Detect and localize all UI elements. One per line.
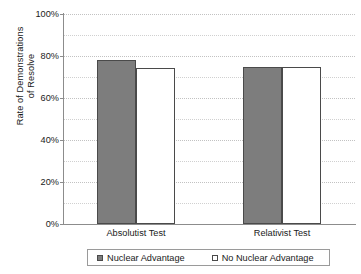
gridline-major bbox=[63, 14, 355, 15]
y-axis-tick-label: 100% bbox=[36, 9, 60, 19]
bar-chart: Rate of Demonstrations of Resolve 0%20%4… bbox=[0, 0, 361, 274]
legend-swatch-icon bbox=[97, 255, 103, 261]
x-axis-category-label: Relativist Test bbox=[254, 228, 311, 238]
legend-label: Nuclear Advantage bbox=[107, 253, 185, 263]
y-axis-tick-label: 80% bbox=[41, 51, 59, 61]
chart-legend: Nuclear AdvantageNo Nuclear Advantage bbox=[87, 249, 330, 266]
bar-nuclear-advantage bbox=[243, 67, 282, 225]
y-axis-tick-label: 20% bbox=[41, 177, 59, 187]
bar-no-nuclear-advantage bbox=[282, 67, 321, 225]
y-axis-tick-label: 40% bbox=[41, 135, 59, 145]
legend-swatch-icon bbox=[212, 255, 218, 261]
gridline-major bbox=[63, 56, 355, 57]
x-axis-category-labels: Absolutist TestRelativist Test bbox=[63, 228, 355, 244]
legend-entry[interactable]: Nuclear Advantage bbox=[97, 253, 185, 263]
legend-entry[interactable]: No Nuclear Advantage bbox=[212, 253, 314, 263]
y-axis-tick-label: 60% bbox=[41, 93, 59, 103]
y-axis-tick-labels: 0%20%40%60%80%100% bbox=[0, 14, 63, 224]
bar-nuclear-advantage bbox=[97, 60, 136, 224]
x-axis-line bbox=[63, 224, 356, 225]
plot-area bbox=[63, 14, 355, 224]
bar-no-nuclear-advantage bbox=[136, 68, 175, 224]
legend-label: No Nuclear Advantage bbox=[222, 253, 314, 263]
y-axis-line bbox=[63, 13, 64, 225]
gridline-minor bbox=[63, 35, 355, 36]
y-axis-tick-label: 0% bbox=[46, 219, 59, 229]
x-axis-category-label: Absolutist Test bbox=[106, 228, 165, 238]
